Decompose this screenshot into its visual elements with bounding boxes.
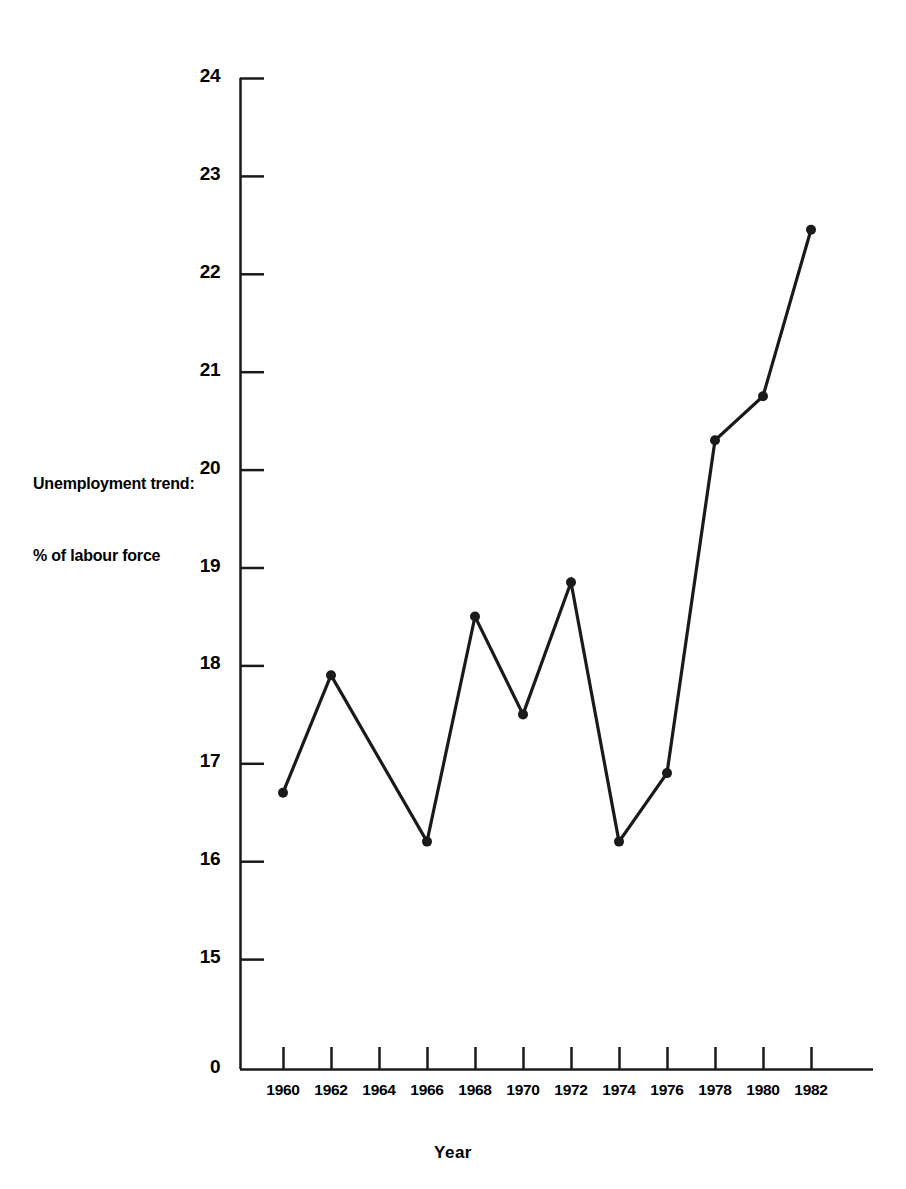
line-chart: Unemployment trend: % of labour force 24… [0, 0, 906, 1189]
y-axis-tick-label: 16 [160, 848, 220, 870]
data-point [422, 837, 432, 847]
y-axis-tick-label: 0 [160, 1056, 220, 1078]
data-point [614, 837, 624, 847]
data-point [278, 788, 288, 798]
x-axis-tick-label: 1962 [305, 1081, 357, 1099]
y-axis-tick-label: 20 [160, 457, 220, 479]
y-axis-tick-label: 23 [160, 163, 220, 185]
y-axis-tick-label: 24 [160, 65, 220, 87]
x-axis-tick-label: 1980 [737, 1081, 789, 1099]
data-markers [278, 225, 816, 847]
x-axis-tick-label: 1978 [689, 1081, 741, 1099]
data-point [806, 225, 816, 235]
data-line [283, 230, 811, 842]
axes [240, 78, 873, 1070]
x-axis-tick-label: 1972 [545, 1081, 597, 1099]
x-axis-tick-label: 1970 [497, 1081, 549, 1099]
x-axis-tick-label: 1966 [401, 1081, 453, 1099]
y-axis-tick-label: 18 [160, 652, 220, 674]
x-axis-ticks [284, 1047, 812, 1069]
x-axis-tick-label: 1964 [353, 1081, 405, 1099]
plot-area [0, 0, 906, 1189]
data-point [470, 612, 480, 622]
x-axis-tick-label: 1976 [641, 1081, 693, 1099]
y-axis-tick-label: 21 [160, 359, 220, 381]
x-axis-tick-label: 1960 [257, 1081, 309, 1099]
y-axis-tick-label: 19 [160, 555, 220, 577]
data-point [518, 709, 528, 719]
y-axis-tick-label: 17 [160, 750, 220, 772]
x-axis-label: Year [0, 1143, 906, 1163]
data-point [662, 768, 672, 778]
y-axis-tick-label: 15 [160, 946, 220, 968]
data-point [566, 577, 576, 587]
data-point [710, 435, 720, 445]
data-point [758, 391, 768, 401]
y-axis-tick-label: 22 [160, 261, 220, 283]
y-axis-ticks [240, 79, 264, 960]
x-axis-tick-label: 1982 [785, 1081, 837, 1099]
x-axis-tick-label: 1968 [449, 1081, 501, 1099]
x-axis-tick-label: 1974 [593, 1081, 645, 1099]
data-point [326, 670, 336, 680]
